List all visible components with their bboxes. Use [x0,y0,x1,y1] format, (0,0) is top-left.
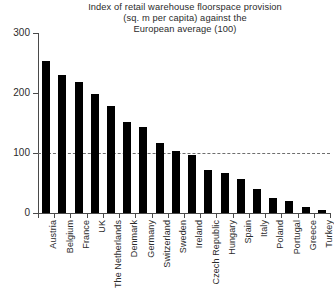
x-axis-tick [70,213,71,218]
x-axis-tick [38,213,39,218]
x-axis-category-label: Ireland [195,220,204,248]
x-axis-category-label: Sweden [179,220,188,253]
x-axis-category-label: Spain [244,220,253,244]
x-axis-category-label: Germany [147,220,156,258]
y-axis-tick-label: 200 [13,87,30,98]
y-axis-tick-label: 0 [24,207,30,218]
x-axis-category-label: Portugal [293,220,302,254]
x-axis-category-label: Czech Republic [212,220,221,284]
x-axis-ticks [38,0,330,220]
y-axis-tick-label: 100 [13,147,30,158]
x-axis-tick [249,213,250,218]
x-axis-tick [54,213,55,218]
x-axis-category-label: Turkey [325,220,334,248]
x-axis-tick [330,213,331,218]
x-axis-category-label: Denmark [130,220,139,257]
x-axis-category-label: UK [98,220,107,233]
x-axis-category-label: Italy [260,220,269,237]
x-axis-tick [103,213,104,218]
x-axis-category-label: Poland [276,220,285,249]
x-axis-tick [184,213,185,218]
x-axis-tick [298,213,299,218]
x-axis-tick [281,213,282,218]
x-axis-tick [314,213,315,218]
x-axis-tick [265,213,266,218]
x-axis-category-label: France [82,220,91,249]
x-axis-category-label: Belgium [66,220,75,253]
x-axis-tick [200,213,201,218]
x-axis-tick [233,213,234,218]
x-axis-tick [216,213,217,218]
y-axis-tick-label: 300 [13,27,30,38]
x-axis-category-labels: AustriaBelgiumFranceUKThe NetherlandsDen… [38,220,330,305]
x-axis-category-label: The Netherlands [114,220,123,288]
x-axis-category-label: Greece [309,220,318,250]
x-axis-category-label: Switzerland [163,220,172,268]
x-axis-category-label: Austria [49,220,58,249]
x-axis-tick [168,213,169,218]
x-axis-tick [119,213,120,218]
x-axis-tick [152,213,153,218]
x-axis-tick [135,213,136,218]
x-axis-category-label: Hungary [228,220,237,255]
x-axis-tick [87,213,88,218]
